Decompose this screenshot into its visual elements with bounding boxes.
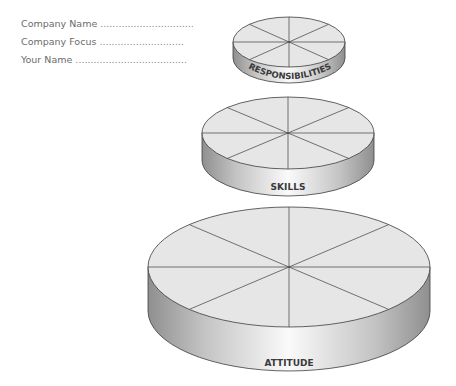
segment-lines [148, 207, 430, 327]
tiered-disk-diagram: RESPONSIBILITIES SKILLS ATTITUDE [0, 0, 456, 386]
tier-skills: SKILLS [202, 97, 374, 196]
tier-label-attitude: ATTITUDE [264, 358, 313, 368]
tier-responsibilities: RESPONSIBILITIES [233, 17, 345, 83]
tier-attitude: ATTITUDE [148, 207, 430, 371]
segment-lines [233, 17, 345, 67]
tier-label-skills: SKILLS [271, 182, 306, 192]
segment-lines [202, 97, 374, 169]
